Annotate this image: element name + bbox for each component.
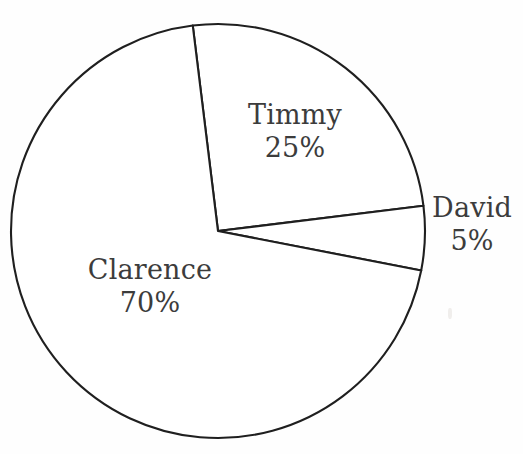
pie-label-david-name: David [424, 192, 520, 225]
pie-chart-figure: Timmy 25% Clarence 70% David 5% [0, 0, 523, 454]
pie-label-clarence-value: 70% [76, 287, 224, 320]
pie-label-david: David 5% [424, 192, 520, 258]
pie-label-clarence: Clarence 70% [76, 254, 224, 320]
pie-label-clarence-name: Clarence [76, 254, 224, 287]
pie-label-timmy: Timmy 25% [231, 99, 359, 165]
paper-speck [448, 308, 452, 319]
pie-label-timmy-name: Timmy [231, 99, 359, 132]
pie-label-david-value: 5% [424, 225, 520, 258]
pie-slices [11, 24, 425, 438]
pie-label-timmy-value: 25% [231, 132, 359, 165]
